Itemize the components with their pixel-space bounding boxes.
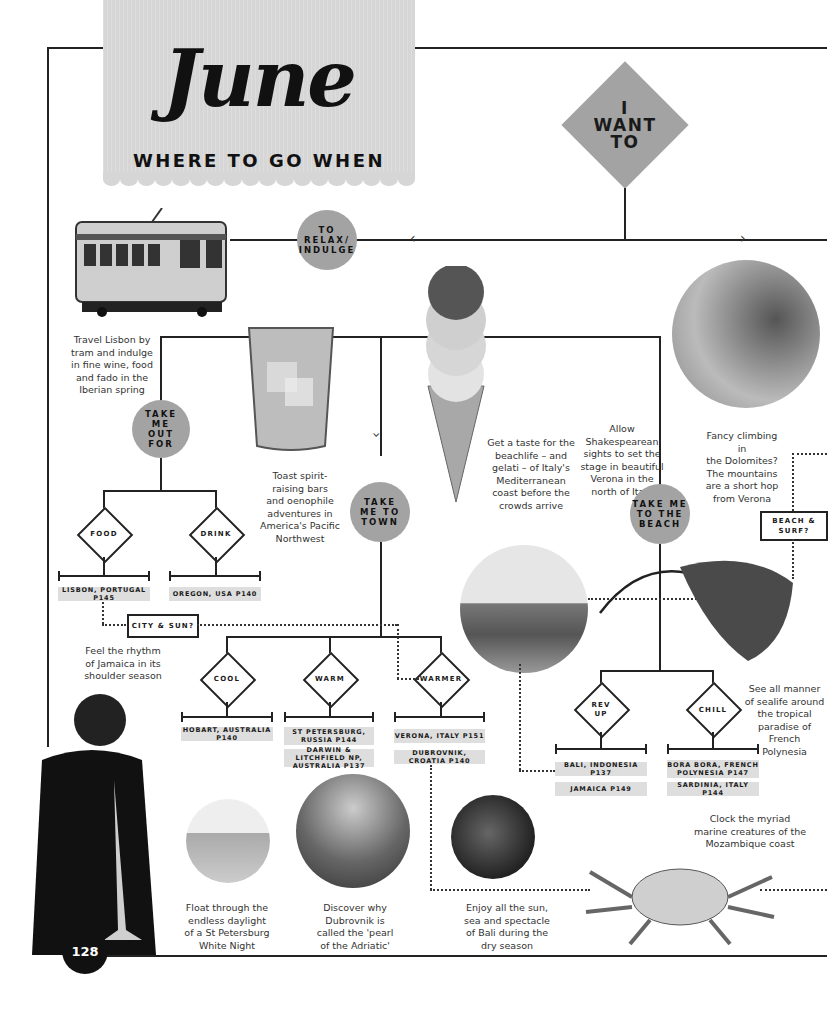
dest-sardinia[interactable]: SARDINIA, ITALY P144	[667, 782, 759, 796]
node-take-me-to-the-beach[interactable]: TAKE ME TO THE BEACH	[630, 484, 690, 544]
tram-photo	[72, 208, 228, 320]
dest-darwin[interactable]: DARWIN & LITCHFIELD NP, AUSTRALIA P137	[284, 749, 374, 767]
connector	[380, 542, 382, 636]
dest-bora-bora[interactable]: BORA BORA, FRENCH POLYNESIA P147	[667, 760, 759, 778]
connector	[160, 458, 162, 490]
arrow-down-icon: ›	[370, 432, 384, 438]
caption-dolomites: Fancy climbing in the Dolomites? The mou…	[702, 430, 782, 505]
dotted-connector	[792, 453, 794, 511]
connector	[712, 732, 714, 748]
banner-scallop-edge	[103, 172, 415, 186]
page-subtitle: WHERE TO GO WHEN	[103, 150, 415, 171]
connector	[600, 670, 714, 672]
dotted-connector	[102, 602, 104, 624]
arrow-left-icon: ‹	[410, 231, 416, 245]
caption-mozambique: Clock the myriad marine creatures of the…	[690, 813, 810, 851]
dubrovnik-photo	[296, 774, 410, 888]
choice-cool-label: COOL	[192, 675, 262, 684]
range-bar	[58, 575, 150, 577]
dotted-connector	[519, 664, 521, 770]
dest-oregon[interactable]: OREGON, USA P140	[169, 587, 261, 601]
dotted-connector	[430, 889, 590, 891]
connector	[329, 702, 331, 716]
choice-rev-up-label: REV UP	[566, 701, 636, 719]
range-bar	[555, 748, 647, 750]
range-bar	[394, 716, 485, 718]
dest-jamaica[interactable]: JAMAICA P149	[555, 782, 647, 796]
dotted-connector	[397, 624, 399, 679]
dest-st-petersburg[interactable]: ST PETERSBURG, RUSSIA P144	[284, 727, 374, 745]
caption-st-petersburg: Float through the endless daylight of a …	[172, 902, 282, 952]
dotted-connector	[519, 770, 555, 772]
st-petersburg-palace-photo	[186, 799, 270, 883]
choice-warm-label: WARM	[295, 675, 365, 684]
dest-bali[interactable]: BALI, INDONESIA P137	[555, 762, 647, 776]
dest-lisbon[interactable]: LISBON, PORTUGAL P145	[58, 587, 150, 601]
caption-jamaica: Feel the rhythm of Jamaica in its should…	[78, 645, 168, 683]
choice-chill-label: CHILL	[678, 706, 748, 715]
range-bar	[284, 716, 374, 718]
crab-photo	[580, 852, 780, 947]
connector	[226, 636, 442, 638]
frame-border-left	[47, 47, 49, 747]
question-city-sun[interactable]: CITY & SUN?	[127, 614, 199, 638]
dotted-connector	[430, 765, 432, 890]
dotted-connector	[792, 453, 827, 455]
dest-hobart[interactable]: HOBART, AUSTRALIA P140	[181, 727, 273, 741]
connector	[380, 336, 382, 456]
arrow-right-icon: ›	[740, 231, 746, 245]
month-title: June	[103, 40, 415, 118]
connector	[659, 336, 661, 486]
node-take-me-out-for[interactable]: TAKE ME OUT FOR	[132, 400, 190, 458]
connector	[103, 557, 105, 575]
dolomites-climber-photo	[672, 260, 820, 408]
connector	[624, 188, 626, 240]
stingray-photo	[598, 553, 798, 663]
caption-sardinia: Get a taste for the beachlife – and gela…	[476, 437, 586, 512]
dest-dubrovnik[interactable]: DUBROVNIK, CROATIA P140	[394, 750, 485, 764]
dotted-connector	[102, 624, 126, 626]
connector	[215, 557, 217, 575]
dotted-connector	[197, 624, 397, 626]
dotted-connector	[397, 678, 419, 680]
branch-line	[160, 336, 660, 338]
connector	[103, 490, 217, 492]
connector	[440, 702, 442, 716]
frame-border-bottom	[100, 955, 827, 957]
caption-bali: Enjoy all the sun, sea and spectacle of …	[452, 902, 562, 952]
range-bar	[169, 575, 261, 577]
cocktail-glass-photo	[245, 322, 337, 454]
caption-polynesia: See all manner of sealife around the tro…	[742, 683, 827, 758]
node-relax[interactable]: TO RELAX/ INDULGE	[297, 210, 357, 270]
choice-drink-label: DRINK	[181, 530, 251, 539]
dest-verona[interactable]: VERONA, ITALY P151	[394, 729, 485, 743]
caption-oregon: Toast spirit- raising bars and oenophile…	[250, 470, 350, 545]
frame-border-top-left	[47, 47, 104, 49]
trumpet-player-photo	[22, 690, 160, 955]
frame-border-top-right	[415, 47, 827, 49]
start-label: I WANT TO	[575, 100, 675, 151]
connector	[600, 732, 602, 748]
bali-people-photo	[451, 795, 535, 879]
node-take-me-to-town[interactable]: TAKE ME TO TOWN	[350, 482, 410, 542]
question-beach-surf[interactable]: BEACH & SURF?	[760, 511, 828, 541]
page-number-badge: 128	[62, 928, 108, 974]
verona-bridge-photo	[460, 545, 588, 673]
range-bar	[181, 716, 273, 718]
choice-food-label: FOOD	[69, 530, 139, 539]
caption-dubrovnik: Discover why Dubrovnik is called the 'pe…	[305, 902, 405, 952]
caption-lisbon: Travel Lisbon by tram and indulge in fin…	[52, 334, 172, 397]
connector	[226, 702, 228, 716]
